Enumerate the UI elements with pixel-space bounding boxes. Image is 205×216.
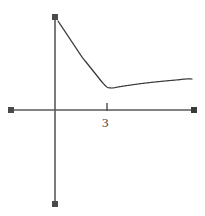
x-axis-tick-label-3: 3: [102, 116, 109, 129]
y-axis-bottom-arrow-icon: [52, 201, 58, 207]
x-axis-left-arrow-icon: [8, 107, 14, 113]
function-graph-figure: 3: [0, 0, 205, 216]
x-axis-right-arrow-icon: [191, 107, 197, 113]
y-axis-top-arrow-icon: [52, 14, 58, 20]
function-curve: [58, 21, 192, 88]
axes-group: [8, 14, 197, 207]
data-series-group: [58, 21, 192, 88]
plot-canvas: [0, 0, 205, 216]
